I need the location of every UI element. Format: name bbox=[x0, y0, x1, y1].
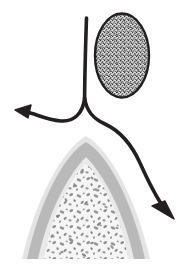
diagram-svg bbox=[0, 0, 187, 271]
figure-canvas bbox=[0, 0, 187, 271]
stem-line bbox=[85, 18, 87, 98]
arrow-left-head bbox=[15, 105, 31, 118]
arrow-left-shaft bbox=[27, 98, 85, 121]
dome-structure bbox=[22, 136, 150, 259]
arrow-right-head bbox=[152, 201, 174, 219]
ovoid-body bbox=[94, 12, 151, 100]
